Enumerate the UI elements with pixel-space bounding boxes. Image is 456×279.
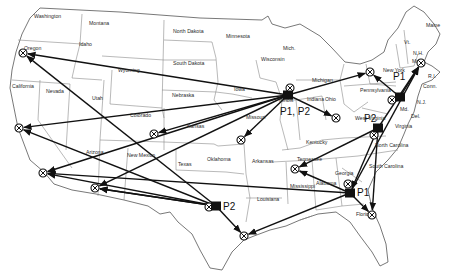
state-label: Wyoming: [118, 67, 140, 73]
state-label: Idaho: [79, 41, 92, 47]
distribution-center-icon: [417, 59, 425, 67]
state-label: Iowa: [234, 86, 245, 92]
state-label: Maine: [426, 22, 440, 28]
state-label: N.H.: [413, 50, 423, 56]
state-label: Louisiana: [257, 196, 279, 202]
plant-label: P1: [393, 71, 406, 82]
state-label: Wisconsin: [261, 56, 285, 62]
state-label: Indiana: [307, 96, 324, 102]
state-label: Oregon: [24, 45, 41, 51]
state-label: Conn.: [423, 83, 437, 89]
plant-square-icon: [283, 91, 293, 100]
distribution-center-icon: [91, 184, 99, 192]
state-label: Arkansas: [252, 158, 274, 164]
distribution-center-icon: [240, 232, 248, 240]
state-label: California: [12, 83, 34, 89]
distribution-center-icon: [15, 124, 23, 132]
state-label: New Mexico: [127, 152, 155, 158]
state-label: Colorado: [130, 112, 151, 118]
plant-label: P1: [357, 187, 370, 198]
distribution-center-icon: [368, 211, 376, 219]
state-label: R.I.: [428, 73, 436, 79]
distribution-center-icon: [388, 96, 396, 104]
distribution-center-icon: [19, 49, 27, 57]
state-label: Texas: [178, 161, 192, 167]
state-label: North Carolina: [375, 142, 409, 148]
state-label: Nebraska: [172, 92, 194, 98]
plant-square-icon: [373, 124, 383, 133]
state-label: Oklahoma: [207, 156, 231, 162]
state-label: Alabama: [316, 180, 337, 186]
plant-label: P2: [364, 113, 377, 124]
distribution-center-icon: [150, 130, 158, 138]
distribution-center-icon: [366, 68, 374, 76]
state-label: Virginia: [395, 123, 412, 129]
plant-square-icon: [395, 93, 405, 102]
state-label: Missouri: [246, 114, 265, 120]
state-label: Washington: [34, 13, 61, 19]
state-label: Utah: [92, 95, 103, 101]
state-label: Kentucky: [306, 139, 328, 145]
us-distribution-map: WashingtonMontanaIdahoOregonNorth Dakota…: [0, 0, 456, 279]
state-label: Mich.: [283, 45, 295, 51]
distribution-center-icon: [332, 114, 340, 122]
state-label: Ohio: [325, 96, 336, 102]
state-label: Montana: [89, 20, 109, 26]
plant-label: P2: [223, 201, 236, 212]
distribution-center-icon: [39, 169, 47, 177]
plant-label: P1, P2: [280, 106, 310, 117]
distribution-center-icon: [291, 165, 299, 173]
state-label: Nevada: [46, 88, 64, 94]
state-label: Mississippi: [290, 183, 315, 189]
state-label: South Dakota: [173, 60, 205, 66]
state-label: Tennessee: [297, 156, 322, 162]
state-label: Vt.: [404, 39, 410, 45]
distribution-center-icon: [237, 136, 245, 144]
state-label: N.J.: [417, 99, 426, 105]
state-label: Arizona: [86, 149, 104, 155]
state-label: Pennsylvania: [360, 87, 391, 93]
state-label: North Dakota: [173, 28, 204, 34]
plant-square-icon: [211, 202, 221, 211]
state-label: Michigan: [312, 77, 333, 83]
plant-square-icon: [345, 189, 355, 198]
state-label: Kansas: [187, 123, 205, 129]
state-label: South Carolina: [369, 163, 403, 169]
state-label: Georgia: [335, 170, 354, 176]
state-label: Minnesota: [226, 33, 250, 39]
state-label: Md.: [400, 106, 409, 112]
distribution-center-icon: [344, 180, 352, 188]
state-label: Del.: [411, 113, 420, 119]
